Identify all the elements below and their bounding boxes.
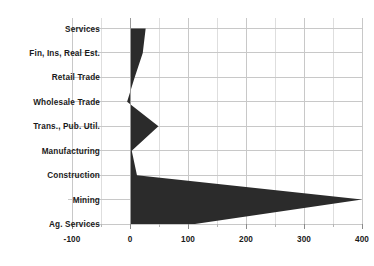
chart-container: ServicesFin, Ins, Real Est.Retail TradeW… — [0, 0, 374, 266]
x-tick-label: 400 — [355, 235, 369, 244]
x-axis-tick-labels: -1000100200300400 — [0, 0, 374, 266]
x-tick-label: 200 — [239, 235, 253, 244]
x-tick-label: 100 — [181, 235, 195, 244]
x-tick-label: 300 — [297, 235, 311, 244]
x-tick-label: -100 — [64, 235, 81, 244]
x-tick-label: 0 — [128, 235, 133, 244]
